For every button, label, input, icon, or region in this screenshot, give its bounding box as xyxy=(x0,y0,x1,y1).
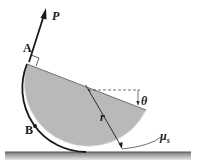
diagram-canvas: P A B r θ μs xyxy=(0,0,197,168)
friction-leader xyxy=(122,137,161,149)
friction-symbol: μ xyxy=(160,129,167,143)
friction-label: μs xyxy=(160,130,170,145)
angle-label: θ xyxy=(141,95,147,107)
point-b-label: B xyxy=(25,124,33,136)
half-cylinder-body xyxy=(22,64,146,152)
point-a-label: A xyxy=(23,42,32,54)
friction-subscript: s xyxy=(167,136,170,145)
radius-label: r xyxy=(100,111,105,123)
force-label: P xyxy=(52,10,59,22)
point-b-marker xyxy=(33,124,37,128)
ground-surface xyxy=(5,152,191,160)
right-angle-marker xyxy=(31,55,39,66)
